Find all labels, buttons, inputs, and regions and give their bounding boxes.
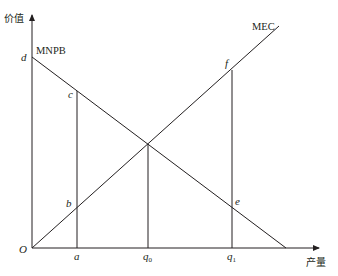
point-f-label: f (225, 57, 230, 69)
tick-q0-label: q0 (143, 250, 153, 264)
tick-q0-sub: 0 (149, 256, 153, 264)
point-c-label: c (68, 88, 73, 100)
tick-a-label: a (74, 250, 80, 262)
mec-label: MEC (252, 21, 275, 32)
point-b-label: b (66, 197, 72, 209)
mnpb-label: MNPB (36, 45, 66, 56)
tick-q1-label: q1 (227, 250, 237, 264)
origin-label: O (19, 243, 27, 255)
mnpb-curve (32, 57, 286, 248)
tick-q1-sub: 1 (233, 256, 237, 264)
point-d-label: d (21, 51, 27, 63)
y-axis-label: 价值 (4, 12, 24, 24)
externality-diagram: 价值 产量 O MNPB MEC d c b e f a q0 q1 (0, 0, 338, 276)
point-e-label: e (235, 195, 240, 207)
x-axis-label: 产量 (306, 256, 326, 268)
